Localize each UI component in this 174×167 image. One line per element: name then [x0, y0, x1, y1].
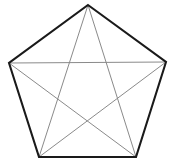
- pentagon-figure-canvas: [0, 0, 174, 167]
- diagonal-upper-left-to-upper-right: [9, 62, 166, 63]
- diagonal-upper-left-to-lower-right: [9, 63, 136, 157]
- pentagon-diagram-svg: [0, 0, 174, 167]
- diagonal-upper-right-to-lower-left: [39, 62, 166, 157]
- diagonal-apex-to-lower-right: [88, 5, 136, 157]
- diagonal-apex-to-lower-left: [39, 5, 88, 157]
